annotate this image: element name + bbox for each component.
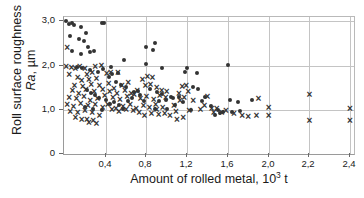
x-tick-label: 0,4 xyxy=(90,159,120,169)
data-point-cross: × xyxy=(113,68,122,77)
data-point-cross: × xyxy=(254,94,263,103)
y-tick-mark xyxy=(59,109,63,110)
data-point-dot xyxy=(122,58,126,62)
data-point-dot xyxy=(92,49,96,53)
scatter-chart-figure: Roll surface roughness Ra, µm ××××××××××… xyxy=(0,0,364,198)
x-tick-mark xyxy=(308,153,309,157)
data-point-cross: × xyxy=(185,106,194,115)
data-point-dot xyxy=(160,66,164,70)
x-tick-label: 1,6 xyxy=(212,159,242,169)
data-point-dot xyxy=(236,100,240,104)
y-tick-mark xyxy=(59,153,63,154)
x-axis-label: Amount of rolled metal, 103 t xyxy=(63,170,355,186)
y-tick-label: 2,0 xyxy=(29,60,55,70)
data-point-dot xyxy=(68,34,72,38)
x-tick-label: 2,0 xyxy=(253,159,283,169)
y-axis-label-symbol: Ra xyxy=(24,74,38,90)
data-point-cross: × xyxy=(305,116,314,125)
data-point-cross: × xyxy=(264,111,273,120)
data-point-dot xyxy=(195,71,199,75)
data-point-cross: × xyxy=(180,93,189,102)
x-gridline xyxy=(309,17,310,154)
data-point-cross: × xyxy=(346,116,355,125)
x-tick-mark xyxy=(227,153,228,157)
data-point-cross: × xyxy=(89,116,98,125)
y-tick-label: 0 xyxy=(29,148,55,158)
data-point-dot xyxy=(151,48,155,52)
data-point-dot xyxy=(79,52,83,56)
data-point-dot xyxy=(86,45,90,49)
data-point-dot xyxy=(72,23,76,27)
data-point-dot xyxy=(196,87,200,91)
x-tick-label: 2,4 xyxy=(334,159,364,169)
x-tick-label: 0,8 xyxy=(130,159,160,169)
x-tick-mark xyxy=(186,153,187,157)
y-tick-mark xyxy=(59,65,63,66)
data-point-cross: × xyxy=(63,43,72,52)
y-tick-label: 1,0 xyxy=(29,104,55,114)
x-tick-mark xyxy=(268,153,269,157)
data-point-dot xyxy=(77,37,81,41)
x-tick-label: 1,2 xyxy=(171,159,201,169)
y-gridline xyxy=(64,21,354,22)
data-point-dot xyxy=(100,21,104,25)
y-axis-label-line1: Roll surface roughness xyxy=(10,5,24,135)
data-point-dot xyxy=(84,31,88,35)
data-point-dot xyxy=(226,63,230,67)
data-point-dot xyxy=(183,70,187,74)
data-point-dot xyxy=(228,98,232,102)
data-point-dot xyxy=(79,25,83,29)
x-gridline xyxy=(269,17,270,154)
y-tick-mark xyxy=(59,20,63,21)
y-tick-label: 3,0 xyxy=(29,15,55,25)
plot-area: ××××××××××××××××××××××××××××××××××××××××… xyxy=(63,16,355,155)
data-point-dot xyxy=(144,45,148,49)
data-point-cross: × xyxy=(140,111,149,120)
data-point-cross: × xyxy=(305,90,314,99)
data-point-cross: × xyxy=(189,96,198,105)
x-axis-label-text: Amount of rolled metal, 103 t xyxy=(130,172,288,186)
x-gridline xyxy=(228,17,229,154)
x-tick-mark xyxy=(145,153,146,157)
data-point-cross: × xyxy=(252,111,261,120)
x-tick-label: 2,2 xyxy=(293,159,323,169)
x-tick-mark xyxy=(105,153,106,157)
data-point-dot xyxy=(153,41,157,45)
data-point-cross: × xyxy=(346,104,355,113)
x-tick-mark xyxy=(349,153,350,157)
x-gridline xyxy=(350,17,351,154)
data-point-dot xyxy=(82,39,86,43)
